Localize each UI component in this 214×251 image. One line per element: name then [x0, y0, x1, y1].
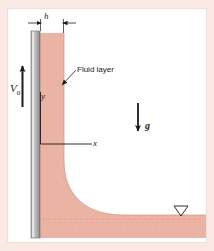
vertical-plate: [31, 31, 40, 238]
diagram-canvas: [0, 0, 214, 251]
fluid-free-surface-outline: [64, 33, 206, 215]
label-gravity: g: [145, 121, 150, 131]
free-surface-triangle-icon: [174, 206, 188, 216]
label-axis-x: x: [93, 139, 97, 148]
label-axis-y: y: [41, 92, 45, 101]
label-plate-velocity-subscript: 0: [17, 89, 21, 97]
label-fluid-layer: Fluid layer: [77, 66, 114, 74]
label-plate-velocity-symbol: V: [10, 82, 17, 94]
label-plate-velocity: V0: [10, 83, 20, 97]
label-thickness-h: h: [44, 12, 49, 21]
figure-root: h V0 Fluid layer y x g: [0, 0, 214, 251]
fluid-region: [40, 33, 206, 238]
fluid-body: [40, 33, 206, 238]
